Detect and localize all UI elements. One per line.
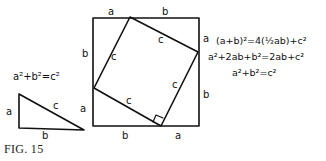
equation-3: a²+b²=c² (232, 67, 277, 78)
triangle-formula: a²+b²=c² (13, 71, 60, 82)
inner-label-left-c: c (111, 51, 117, 62)
square-label-bottom-a: a (175, 130, 181, 141)
triangle-label-b: b (42, 130, 48, 141)
figure-caption: FIG. 15 (4, 142, 43, 157)
triangle-label-a: a (6, 106, 12, 117)
equation-2: a²+2ab+b²=2ab+c² (208, 51, 304, 62)
square-label-right-a: a (203, 33, 209, 44)
pythagoras-diagram: a²+b²=c² a c b a b b a b a a b c c c c (… (0, 0, 326, 161)
inner-label-right-c: c (172, 79, 178, 90)
triangle-label-c: c (53, 100, 59, 111)
square-label-left-a: a (80, 103, 86, 114)
inner-label-bottom-c: c (126, 95, 132, 106)
square-label-top-b: b (162, 6, 168, 17)
square-label-bottom-b: b (122, 130, 128, 141)
equation-1: (a+b)²=4(½ab)+c² (216, 35, 307, 46)
square-label-right-b: b (203, 89, 209, 100)
inner-tilted-square (94, 17, 198, 126)
small-right-triangle (19, 94, 84, 130)
square-label-left-b: b (82, 48, 88, 59)
inner-label-top-c: c (158, 34, 164, 45)
outer-square (93, 18, 199, 126)
square-label-top-a: a (108, 6, 114, 17)
